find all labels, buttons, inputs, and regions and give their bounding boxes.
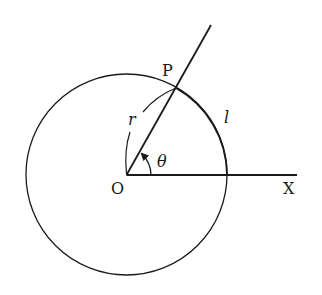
ray-op — [127, 25, 212, 175]
label-radius: r — [128, 112, 136, 128]
label-axis-x: X — [283, 181, 294, 197]
angle-arrow-arc — [142, 154, 151, 175]
radius-dimension-arc-lower — [126, 132, 130, 174]
polar-diagram: P O X r l θ — [0, 0, 322, 295]
diagram-canvas — [0, 0, 322, 295]
label-angle: θ — [157, 154, 167, 170]
arc-l — [176, 88, 227, 175]
label-point-p: P — [162, 63, 173, 79]
label-arc-length: l — [224, 110, 229, 126]
label-origin: O — [111, 181, 124, 197]
radius-dimension-arc-upper — [143, 88, 176, 112]
